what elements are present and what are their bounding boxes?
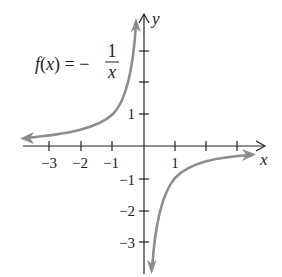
x-axis-label: x	[259, 150, 268, 169]
curve-left-smooth	[25, 24, 136, 138]
y-tick-label-neg3: −3	[119, 235, 135, 251]
x-tick-label-neg1: −1	[103, 155, 119, 171]
formula-denominator: x	[107, 62, 116, 82]
function-graph: −3 −2 −1 1 1 −1 −2 −3 x y f(x) = − 1 x	[0, 0, 282, 277]
formula-numerator: 1	[108, 41, 117, 61]
formula-lhs: f(x) = −	[35, 54, 89, 75]
x-tick-label-neg2: −2	[72, 155, 88, 171]
y-tick-label-neg1: −1	[119, 172, 135, 188]
y-tick-label-1: 1	[128, 106, 136, 122]
formula-annotation: f(x) = − 1 x	[35, 41, 119, 82]
y-tick-label-neg2: −2	[119, 203, 135, 219]
curve-right-smooth	[152, 155, 251, 270]
x-tick-label-1: 1	[171, 155, 179, 171]
x-tick-label-neg3: −3	[41, 155, 57, 171]
y-axis-label: y	[150, 9, 160, 28]
